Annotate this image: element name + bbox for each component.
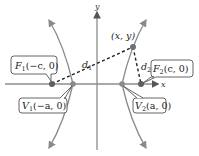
left-branch-lower	[49, 84, 73, 148]
point-xy-label: (x, y)	[111, 30, 135, 41]
focus-f1-callout: F1(−c, 0)	[11, 56, 59, 81]
d2-label: d2	[141, 61, 151, 74]
hyperbola-diagram: x y d1 d2 (x, y) F1(−c, 0) F2(c, 0)	[0, 0, 199, 156]
vertex-v1-callout: V1(−a, 0)	[19, 86, 72, 113]
vertex-v1-dot	[70, 81, 76, 87]
focus-f1-dot	[49, 81, 55, 87]
distance-d2-line	[133, 47, 141, 84]
focus-f2-dot	[138, 81, 144, 87]
vertex-v2-callout: V2(a, 0)	[123, 86, 171, 113]
x-axis-label: x	[161, 80, 166, 89]
point-xy-dot	[130, 44, 136, 50]
y-axis-label: y	[94, 2, 100, 11]
vertex-v2-dot	[119, 81, 125, 87]
